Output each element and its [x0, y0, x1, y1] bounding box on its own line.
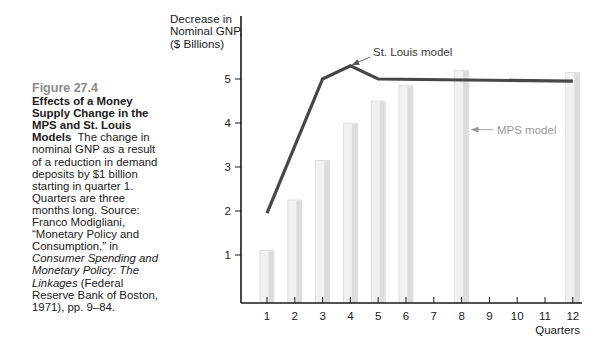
x-tick-label: 4: [347, 310, 354, 322]
bar-shade: [352, 124, 357, 303]
mps-bar: [566, 72, 580, 303]
bar-shade: [324, 161, 329, 303]
y-tick-label: 5: [225, 73, 231, 85]
x-tick-label: 11: [539, 310, 551, 322]
mps-bar: [371, 101, 385, 303]
mps-bar: [399, 86, 413, 303]
x-tick-label: 9: [486, 310, 492, 322]
y-tick-label: 4: [225, 117, 232, 129]
mps-label: MPS model: [497, 124, 556, 136]
bar-shade: [408, 87, 413, 303]
mps-bar: [343, 123, 357, 303]
x-tick-label: 6: [403, 310, 409, 322]
y-tick-label: 2: [225, 205, 231, 217]
st-louis-label: St. Louis model: [373, 46, 452, 58]
x-tick-label: 12: [566, 310, 579, 322]
mps-bars: [260, 70, 580, 303]
st-louis-line: [267, 66, 573, 213]
x-tick-label: 2: [292, 310, 298, 322]
mps-bar: [316, 160, 330, 303]
st-louis-arrow: [352, 57, 370, 65]
x-tick-label: 1: [264, 310, 270, 322]
bar-shade: [574, 73, 579, 303]
x-tick-label: 7: [431, 310, 437, 322]
mps-bar: [455, 70, 469, 303]
x-axis-label: Quarters: [535, 324, 580, 336]
x-tick-label: 10: [511, 310, 524, 322]
x-tick-label: 3: [319, 310, 325, 322]
bar-shade: [380, 102, 385, 303]
mps-bar: [288, 200, 302, 303]
y-tick-label: 3: [225, 161, 231, 173]
bar-shade: [463, 71, 468, 303]
chart: 12345123456789101112Quarters St. Louis m…: [0, 0, 614, 359]
st-louis-polyline: [267, 66, 573, 213]
mps-bar: [260, 251, 274, 303]
x-tick-label: 8: [458, 310, 464, 322]
bar-shade: [296, 201, 301, 303]
x-tick-label: 5: [375, 310, 381, 322]
y-tick-label: 1: [225, 249, 231, 261]
bar-shade: [269, 252, 274, 303]
